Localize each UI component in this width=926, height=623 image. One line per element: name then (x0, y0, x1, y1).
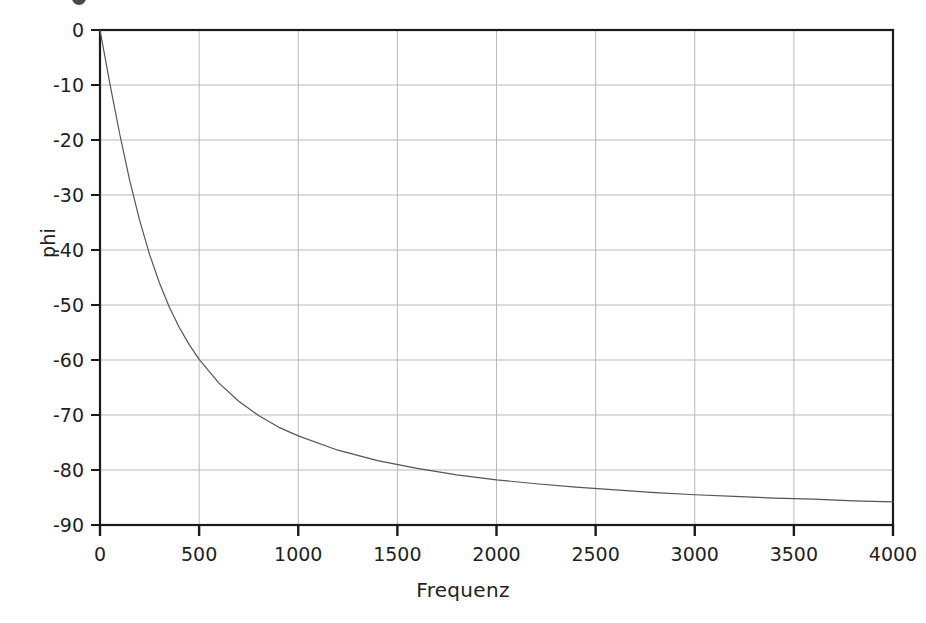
y-axis-label: phi (37, 193, 59, 293)
y-tick-label: -50 (0, 294, 84, 316)
x-tick-label: 3500 (770, 543, 818, 565)
chart-figure: 0-10-20-30-40-50-60-70-80-90 05001000150… (0, 0, 926, 623)
x-tick-label: 2500 (571, 543, 619, 565)
y-tick-label: -10 (0, 74, 84, 96)
x-tick-label: 0 (94, 543, 106, 565)
tick-marks (91, 30, 893, 536)
y-tick-label: -20 (0, 129, 84, 151)
x-tick-label: 1000 (274, 543, 322, 565)
x-tick-label: 3000 (671, 543, 719, 565)
x-tick-label: 1500 (373, 543, 421, 565)
x-tick-label: 4000 (869, 543, 917, 565)
y-tick-label: 0 (0, 19, 84, 41)
x-tick-label: 500 (181, 543, 217, 565)
x-tick-label: 2000 (472, 543, 520, 565)
y-tick-label: -70 (0, 404, 84, 426)
y-tick-label: -60 (0, 349, 84, 371)
grid-lines (100, 30, 893, 525)
x-axis-label: Frequenz (0, 578, 926, 602)
y-tick-label: -80 (0, 459, 84, 481)
phase-response-plot (0, 0, 926, 623)
y-tick-label: -90 (0, 514, 84, 536)
